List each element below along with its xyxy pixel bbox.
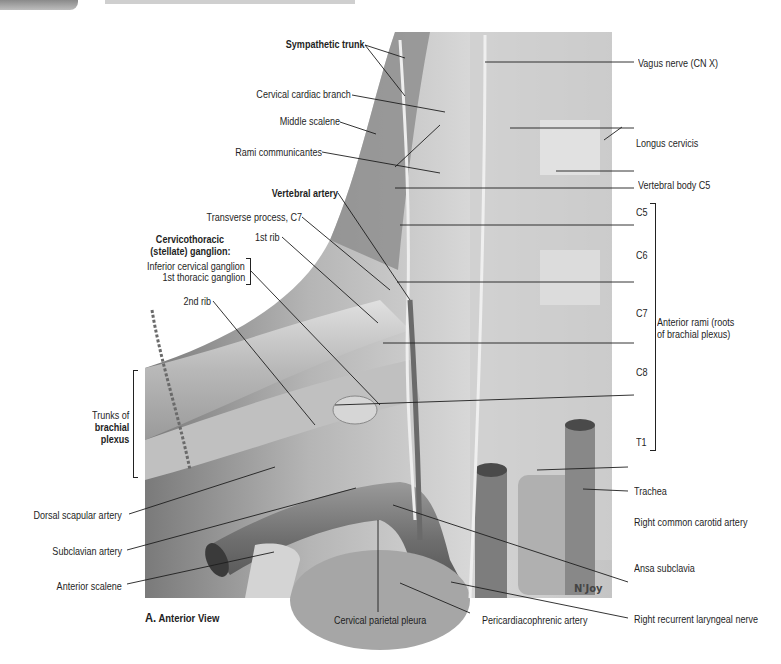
label-pericardiacophrenic-artery: Pericardiacophrenic artery bbox=[482, 614, 587, 626]
label-rami-communicantes: Rami communicantes bbox=[235, 146, 322, 158]
label-trachea: Trachea bbox=[634, 485, 667, 497]
trunks-bracket bbox=[133, 370, 138, 478]
label-stellate-heading: Cervicothoracic bbox=[156, 233, 225, 245]
label-first-rib: 1st rib bbox=[255, 231, 280, 243]
label-c6: C6 bbox=[636, 249, 648, 261]
label-right-recurrent-laryngeal-nerve: Right recurrent laryngeal nerve bbox=[634, 613, 758, 625]
label-anterior-scalene: Anterior scalene bbox=[57, 580, 122, 592]
label-second-rib: 2nd rib bbox=[183, 295, 211, 307]
label-middle-scalene: Middle scalene bbox=[280, 115, 340, 127]
label-plexus: plexus bbox=[100, 433, 129, 445]
caption-view: Anterior View bbox=[158, 612, 219, 624]
svg-text:N'Joy: N'Joy bbox=[574, 583, 603, 594]
label-cervical-cardiac-branch: Cervical cardiac branch bbox=[257, 88, 351, 100]
label-sympathetic-trunk: Sympathetic trunk bbox=[286, 38, 365, 50]
label-stellate-heading-2: (stellate) ganglion: bbox=[150, 245, 232, 257]
label-vertebral-artery: Vertebral artery bbox=[272, 187, 338, 199]
label-c5: C5 bbox=[636, 206, 648, 218]
label-ansa-subclavia: Ansa subclavia bbox=[634, 562, 695, 574]
label-trunks-of: Trunks of bbox=[92, 409, 129, 421]
label-subclavian-artery: Subclavian artery bbox=[52, 545, 122, 557]
label-right-common-carotid-artery: Right common carotid artery bbox=[634, 516, 747, 528]
label-c7: C7 bbox=[636, 307, 648, 319]
label-vagus-nerve: Vagus nerve (CN X) bbox=[638, 57, 718, 69]
label-brachial: brachial bbox=[94, 421, 129, 433]
label-first-thoracic-ganglion: 1st thoracic ganglion bbox=[162, 271, 245, 283]
label-dorsal-scapular-artery: Dorsal scapular artery bbox=[34, 509, 122, 521]
figure-caption: A. Anterior View bbox=[145, 610, 219, 625]
label-c8: C8 bbox=[636, 366, 648, 378]
ganglion-bracket bbox=[246, 258, 251, 285]
label-longus-cervicis: Longus cervicis bbox=[636, 137, 698, 149]
label-cervical-parietal-pleura: Cervical parietal pleura bbox=[334, 614, 426, 626]
label-transverse-process-c7: Transverse process, C7 bbox=[206, 211, 302, 223]
label-vertebral-body-c5: Vertebral body C5 bbox=[638, 179, 710, 191]
caption-letter: A. bbox=[145, 610, 156, 625]
label-anterior-rami-2: of brachial plexus) bbox=[657, 328, 730, 340]
label-t1: T1 bbox=[636, 436, 647, 448]
anterior-rami-bracket bbox=[650, 203, 656, 451]
label-anterior-rami: Anterior rami (roots bbox=[657, 316, 734, 328]
